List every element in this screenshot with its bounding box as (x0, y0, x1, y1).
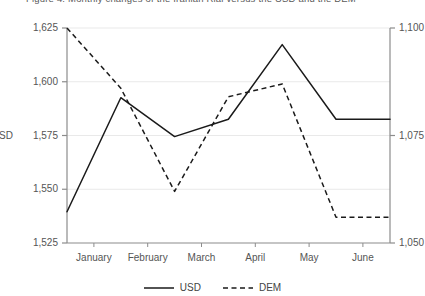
left-tick-label-1575: 1,575 (14, 131, 58, 141)
right-axis (390, 28, 395, 243)
left-tick-label-1625: 1,625 (14, 23, 58, 33)
legend-item-usd[interactable]: USD (144, 283, 201, 293)
chart-legend: USD DEM (0, 279, 425, 296)
left-tick-label-1525: 1,525 (14, 238, 58, 248)
legend-label-usd: USD (180, 283, 201, 293)
right-tick-label-1050: 1,050 (399, 238, 424, 248)
right-tick-label-1075: 1,075 (399, 131, 424, 141)
left-tick-label-1550: 1,550 (14, 184, 58, 194)
left-tick-label-1600: 1,600 (14, 77, 58, 87)
left-axis-title: USD (0, 131, 13, 141)
chart-figure: Figure 4. Monthly changes of the Iranian… (0, 0, 425, 296)
legend-dashed-line-icon (223, 284, 253, 292)
bottom-axis (67, 243, 390, 247)
series-line-usd (67, 45, 390, 212)
legend-label-dem: DEM (259, 283, 281, 293)
legend-item-dem[interactable]: DEM (223, 283, 281, 293)
legend-solid-line-icon (144, 284, 174, 292)
x-tick-label-june: June (328, 253, 398, 263)
right-tick-label-1100: 1,100 (399, 23, 424, 33)
left-axis (62, 28, 67, 243)
